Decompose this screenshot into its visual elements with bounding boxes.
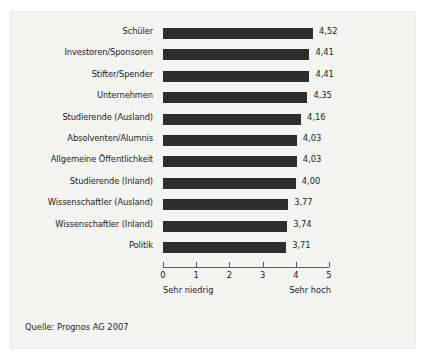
bar [163,199,288,210]
axis-max-label: Sehr hoch [273,285,331,295]
x-axis-tick-label: 4 [286,270,306,280]
bar-value-label: 4,52 [319,26,337,37]
bar-row: Politik3,71 [11,242,417,253]
bar-value-label: 4,03 [303,133,321,144]
source-note: Quelle: Prognos AG 2007 [25,322,128,332]
bar [163,242,286,253]
axis-min-label: Sehr niedrig [163,285,214,295]
category-label: Wissenschaftler (Inland) [11,219,153,230]
category-label: Studierende (Inland) [11,176,153,187]
bar-value-label: 4,03 [303,154,321,165]
bar-row: Wissenschaftler (Inland)3,74 [11,221,417,232]
x-axis-tick [329,262,330,267]
bar-row: Stifter/Spender4,41 [11,71,417,82]
category-label: Wissenschaftler (Ausland) [11,197,153,208]
category-label: Allgemeine Öffentlichkeit [11,154,153,165]
bar [163,28,313,39]
bar [163,92,307,103]
bar-value-label: 4,35 [313,90,331,101]
bar-value-label: 3,71 [292,240,310,251]
bar-row: Unternehmen4,35 [11,92,417,103]
category-label: Investoren/Sponsoren [11,47,153,58]
bar [163,221,287,232]
bar [163,114,301,125]
plot-area: Schüler4,52Investoren/Sponsoren4,41Stift… [11,12,417,350]
bar-value-label: 3,74 [293,219,311,230]
bar-row: Absolventen/Alumnis4,03 [11,135,417,146]
bar [163,49,309,60]
x-axis-line [163,267,329,268]
bar-row: Investoren/Sponsoren4,41 [11,49,417,60]
bar [163,156,297,167]
bar-row: Studierende (Inland)4,00 [11,178,417,189]
category-label: Stifter/Spender [11,69,153,80]
category-label: Absolventen/Alumnis [11,133,153,144]
bar-value-label: 4,41 [315,69,333,80]
x-axis-tick-label: 1 [186,270,206,280]
x-axis-tick [196,262,197,267]
bar-value-label: 4,00 [302,176,320,187]
x-axis-tick [296,262,297,267]
category-label: Studierende (Ausland) [11,112,153,123]
bar-row: Schüler4,52 [11,28,417,39]
bar-row: Allgemeine Öffentlichkeit4,03 [11,156,417,167]
bar [163,178,296,189]
bar-value-label: 4,16 [307,112,325,123]
bar [163,135,297,146]
x-axis-tick-label: 2 [219,270,239,280]
bar-row: Wissenschaftler (Ausland)3,77 [11,199,417,210]
x-axis-tick-label: 5 [319,270,339,280]
x-axis-tick-label: 3 [253,270,273,280]
x-axis-tick-label: 0 [153,270,173,280]
bar-value-label: 3,77 [294,197,312,208]
chart-figure: Schüler4,52Investoren/Sponsoren4,41Stift… [10,11,416,349]
category-label: Schüler [11,26,153,37]
category-label: Unternehmen [11,90,153,101]
bar [163,71,309,82]
category-label: Politik [11,240,153,251]
x-axis-tick [163,262,164,267]
bar-row: Studierende (Ausland)4,16 [11,114,417,125]
bar-value-label: 4,41 [315,47,333,58]
x-axis-tick [263,262,264,267]
x-axis-tick [229,262,230,267]
